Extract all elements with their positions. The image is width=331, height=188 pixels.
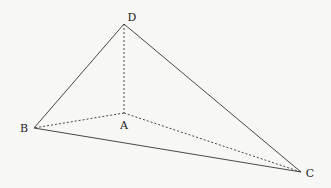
label-c: C (306, 167, 314, 180)
label-b: B (20, 122, 28, 135)
edge-bc (34, 128, 301, 172)
tetrahedron-diagram: D A B C (0, 0, 331, 188)
label-a: A (119, 119, 129, 132)
edge-ac-hidden (124, 113, 301, 172)
diagram-svg: D A B C (0, 0, 331, 188)
edge-db (34, 24, 124, 128)
label-d: D (128, 11, 137, 24)
edge-ab-hidden (34, 113, 124, 128)
edge-dc (124, 24, 301, 172)
